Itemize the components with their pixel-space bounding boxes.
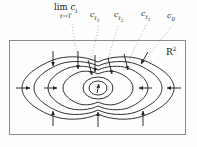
label-c0-sub: 0	[171, 16, 175, 22]
label-ct3: ct3	[90, 11, 100, 23]
label-limit-operator: lim	[54, 2, 68, 12]
flow-arrows	[16, 51, 181, 127]
label-ct1: ct1	[141, 10, 151, 22]
leader-limit	[72, 24, 78, 62]
label-limit-subscript: t→T	[54, 13, 77, 19]
plane-frame	[10, 41, 186, 135]
label-ct2: ct2	[114, 11, 124, 23]
label-ct3-subsub: 3	[97, 18, 100, 23]
label-c0: c0	[167, 12, 175, 22]
figure-canvas: limct t→T ct3 ct2 ct1 c0 R2	[0, 0, 197, 147]
arrow-core	[97, 84, 99, 93]
label-ct1-subsub: 1	[148, 17, 151, 22]
arrow-top-c0-right	[141, 52, 148, 64]
label-limit-curve: limct t→T	[54, 3, 77, 19]
label-ct2-subsub: 2	[121, 18, 124, 23]
label-limit-curve-sub: t	[75, 8, 77, 14]
label-plane-exponent: 2	[173, 45, 177, 52]
label-plane-base: R	[166, 47, 173, 57]
leader-c3	[90, 26, 99, 63]
label-plane-r2: R2	[166, 46, 177, 57]
